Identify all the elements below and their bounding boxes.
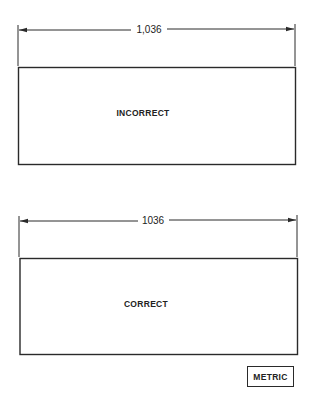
dimension-label: 1,036 [136,24,161,35]
dimensioning-diagram: 1,036 INCORRECT 1036 CORRECT METRIC [0,0,312,401]
figure-incorrect: 1,036 INCORRECT [18,24,296,165]
box-label: CORRECT [124,299,169,309]
units-badge-label: METRIC [253,372,287,382]
figure-correct: 1036 CORRECT [19,215,298,355]
box-label: INCORRECT [116,108,170,118]
dimension-label: 1036 [142,215,165,226]
units-badge: METRIC [248,367,294,387]
